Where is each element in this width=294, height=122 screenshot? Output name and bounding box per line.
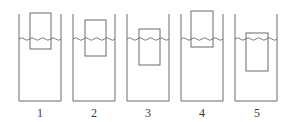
beaker-label-1: 1 xyxy=(30,106,50,120)
beaker-group-2 xyxy=(73,14,115,101)
beaker-vessel-5 xyxy=(235,14,277,101)
beaker-vessel-3 xyxy=(127,14,169,101)
water-surface-5 xyxy=(235,38,277,41)
water-surface-2 xyxy=(73,38,115,41)
beaker-group-1 xyxy=(19,13,61,101)
beakers-diagram-svg xyxy=(0,0,294,122)
beaker-vessel-4 xyxy=(181,14,223,101)
beaker-vessel-1 xyxy=(19,14,61,101)
beaker-label-3: 3 xyxy=(138,106,158,120)
floating-block-4 xyxy=(191,11,213,47)
beakers-figure: 1 2 3 4 5 xyxy=(0,0,294,122)
water-surface-4 xyxy=(181,38,223,41)
beaker-group-3 xyxy=(127,14,169,101)
floating-block-1 xyxy=(30,13,51,49)
beaker-group-5 xyxy=(235,14,277,101)
water-surface-1 xyxy=(19,38,61,41)
beaker-label-2: 2 xyxy=(84,106,104,120)
water-surface-3 xyxy=(127,38,169,41)
beaker-group-4 xyxy=(181,11,223,101)
beaker-label-4: 4 xyxy=(192,106,212,120)
beaker-label-5: 5 xyxy=(247,106,267,120)
floating-block-3 xyxy=(139,29,160,65)
beaker-vessel-2 xyxy=(73,14,115,101)
